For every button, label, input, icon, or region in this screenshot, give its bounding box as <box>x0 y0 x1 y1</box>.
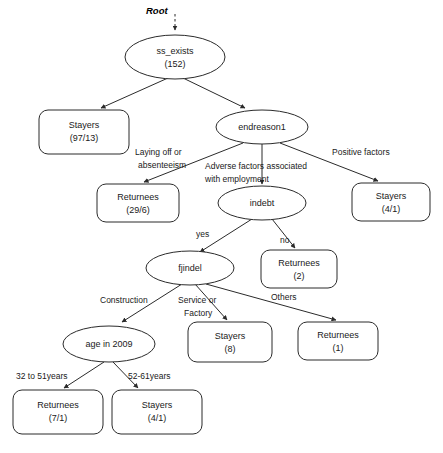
node-returnees-7-1-label: Returnees <box>37 400 79 410</box>
node-returnees-29-6-label: Returnees <box>117 192 159 202</box>
tree-canvas: Root ss_exists (152) Stayers (97/13) end… <box>0 0 443 453</box>
node-stayers-4-1-top[interactable]: Stayers (4/1) <box>352 183 430 221</box>
edge-label-positive-factors: Positive factors <box>332 147 390 157</box>
node-stayers-4-1-bottom-value: (4/1) <box>148 413 167 423</box>
node-stayers-4-1-bottom[interactable]: Stayers (4/1) <box>112 390 202 434</box>
node-returnees-29-6-value: (29/6) <box>126 205 150 215</box>
node-ss-exists-label: ss_exists <box>156 46 194 56</box>
edge-age-to-returnees <box>64 362 104 388</box>
node-stayers-4-1-bottom-label: Stayers <box>142 400 173 410</box>
node-endreason1[interactable]: endreason1 <box>216 110 308 144</box>
edge-label-service-line2: Factory <box>184 308 213 318</box>
node-stayers-4-1-top-label: Stayers <box>376 191 407 201</box>
edge-label-no: no <box>280 235 290 245</box>
edge-label-age-32-51: 32 to 51years <box>16 371 68 381</box>
node-age-in-2009[interactable]: age in 2009 <box>63 326 155 362</box>
node-indebt[interactable]: indebt <box>218 186 306 220</box>
edge-label-service-line1: Service or <box>178 295 216 305</box>
node-returnees-29-6[interactable]: Returnees (29/6) <box>97 184 179 222</box>
node-stayers-97-13-label: Stayers <box>69 120 100 130</box>
edge-ss-exists-to-endreason1 <box>183 78 245 108</box>
node-returnees-2[interactable]: Returnees (2) <box>261 250 337 288</box>
edge-ss-exists-to-stayers <box>101 78 168 108</box>
node-stayers-8-value: (8) <box>225 344 236 354</box>
node-returnees-1[interactable]: Returnees (1) <box>298 322 378 360</box>
node-indebt-label: indebt <box>250 198 275 208</box>
node-returnees-1-value: (1) <box>333 343 344 353</box>
node-age-in-2009-label: age in 2009 <box>85 339 132 349</box>
edge-label-laying-off-line2: absenteeism <box>138 160 186 170</box>
root-label: Root <box>146 5 168 16</box>
node-stayers-8-label: Stayers <box>215 331 246 341</box>
node-returnees-7-1-value: (7/1) <box>49 413 68 423</box>
node-stayers-97-13[interactable]: Stayers (97/13) <box>39 110 129 154</box>
edge-label-others: Others <box>271 292 297 302</box>
node-returnees-2-value: (2) <box>294 271 305 281</box>
node-ss-exists[interactable]: ss_exists (152) <box>125 35 225 79</box>
edge-fjindel-to-returnees <box>206 284 336 320</box>
edge-label-construction: Construction <box>100 295 148 305</box>
node-endreason1-label: endreason1 <box>238 122 286 132</box>
decision-tree-diagram: Root ss_exists (152) Stayers (97/13) end… <box>0 0 443 453</box>
edge-label-yes: yes <box>196 229 209 239</box>
node-returnees-7-1[interactable]: Returnees (7/1) <box>13 390 103 434</box>
node-returnees-2-label: Returnees <box>278 258 320 268</box>
node-stayers-8[interactable]: Stayers (8) <box>188 322 272 362</box>
edge-label-adverse-line1: Adverse factors associated <box>205 161 307 171</box>
node-fjindel-label: fjindel <box>178 263 202 273</box>
edge-label-laying-off-line1: Laying off or <box>135 147 182 157</box>
node-stayers-4-1-top-value: (4/1) <box>382 204 401 214</box>
edge-label-age-52-61: 52-61years <box>128 371 171 381</box>
edge-label-adverse-line2: with employment <box>204 174 269 184</box>
node-fjindel[interactable]: fjindel <box>146 251 234 285</box>
node-returnees-1-label: Returnees <box>317 330 359 340</box>
node-ss-exists-value: (152) <box>164 59 185 69</box>
node-stayers-97-13-value: (97/13) <box>70 133 99 143</box>
